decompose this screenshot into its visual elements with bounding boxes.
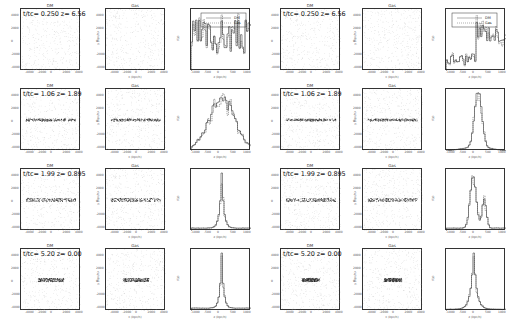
right-hist-panel-row2: z (kpc/h)f(z)-1000-50005001000: [445, 88, 505, 150]
x-tick: -1000: [191, 150, 200, 154]
x-axis-label: x (kpc/h): [106, 315, 164, 319]
y-tick: 0: [11, 279, 13, 283]
x-tick: 4000: [160, 310, 168, 314]
y-tick: -2000: [96, 132, 105, 136]
right-dm-panel-row3: DMt/tc= 1.99 z= 0.895-4000-2000020004000…: [280, 168, 340, 230]
x-tick: 500: [230, 310, 236, 314]
y-axis-label: f(z): [431, 276, 435, 281]
x-tick: -500: [459, 230, 466, 234]
x-tick: 2000: [323, 150, 331, 154]
time-redshift-label: t/tc= 1.99 z= 0.895: [283, 170, 346, 178]
histogram-lines: [191, 249, 251, 311]
x-tick: 2000: [63, 310, 71, 314]
left-hist-panel-row3: z (kpc/h)f(z)-1000-50005001000: [190, 168, 250, 230]
scatter-points: [281, 169, 341, 231]
y-tick: 2000: [96, 266, 104, 270]
x-tick: -2000: [38, 70, 47, 74]
time-redshift-label: t/tc= 0.250 z= 6.56: [23, 10, 86, 18]
y-tick: 2000: [353, 106, 361, 110]
x-tick: -4000: [285, 70, 294, 74]
x-tick: -2000: [380, 150, 389, 154]
x-tick: 500: [485, 70, 491, 74]
y-tick: -2000: [96, 52, 105, 56]
x-tick: 500: [230, 150, 236, 154]
x-tick: 4000: [160, 150, 168, 154]
y-tick: 4000: [271, 13, 279, 17]
scatter-points: [281, 249, 341, 311]
x-tick: 4000: [417, 230, 425, 234]
x-axis-label: z (kpc/h): [191, 235, 249, 239]
histogram-lines: [446, 169, 506, 231]
x-tick: 0: [50, 310, 52, 314]
y-tick: -2000: [96, 292, 105, 296]
right-dm-panel-row1: DMt/tc= 0.250 z= 6.56-4000-2000020004000…: [280, 8, 340, 70]
right-gas-panel-row4: Gasx (kpc/h)y (kpc/h)-4000-2000020004000…: [362, 248, 422, 310]
x-tick: 1000: [243, 150, 251, 154]
y-tick: -4000: [96, 305, 105, 309]
x-tick: -4000: [285, 150, 294, 154]
y-tick: 4000: [353, 13, 361, 17]
y-tick: 4000: [96, 13, 104, 17]
y-tick: 4000: [353, 173, 361, 177]
svg-text:DM: DM: [234, 16, 240, 20]
panel-title: DM: [21, 163, 79, 168]
x-tick: -4000: [110, 230, 119, 234]
x-axis-label: x (kpc/h): [106, 75, 164, 79]
x-tick: 2000: [148, 310, 156, 314]
x-tick: -2000: [298, 230, 307, 234]
scatter-points: [21, 169, 81, 231]
panel-title: Gas: [363, 3, 421, 8]
x-tick: 1000: [498, 150, 506, 154]
x-axis-label: z (kpc/h): [191, 155, 249, 159]
x-tick: 4000: [417, 150, 425, 154]
y-axis-label: f(z): [431, 116, 435, 121]
y-tick: 0: [96, 279, 98, 283]
x-axis-label: x (kpc/h): [363, 155, 421, 159]
y-tick: 2000: [11, 186, 19, 190]
left-gas-panel-row2: Gasx (kpc/h)y (kpc/h)-4000-2000020004000…: [105, 88, 165, 150]
y-tick: 2000: [353, 26, 361, 30]
left-dm-panel-row1: DMt/tc= 0.250 z= 6.56-4000-2000020004000…: [20, 8, 80, 70]
right-gas-panel-row1: Gasx (kpc/h)y (kpc/h)-4000-2000020004000…: [362, 8, 422, 70]
x-tick: 4000: [335, 150, 343, 154]
panel-title: DM: [281, 163, 339, 168]
left-dm-panel-row2: DMt/tc= 1.06 z= 1.89-4000-20000200040004…: [20, 88, 80, 150]
x-tick: -4000: [367, 230, 376, 234]
x-axis-label: x (kpc/h): [106, 235, 164, 239]
x-tick: 2000: [63, 230, 71, 234]
y-axis-label: f(z): [431, 36, 435, 41]
right-hist-panel-row3: z (kpc/h)f(z)-1000-50005001000: [445, 168, 505, 230]
x-tick: -4000: [285, 310, 294, 314]
y-tick: 4000: [353, 93, 361, 97]
histogram-lines: [191, 169, 251, 231]
x-tick: 4000: [417, 310, 425, 314]
histogram-lines: [191, 89, 251, 151]
y-tick: -4000: [96, 65, 105, 69]
y-tick: -2000: [353, 212, 362, 216]
x-tick: -500: [459, 70, 466, 74]
scatter-points: [21, 249, 81, 311]
y-tick: 0: [353, 199, 355, 203]
x-tick: 500: [485, 310, 491, 314]
y-axis-label: f(z): [176, 196, 180, 201]
x-tick: 500: [230, 230, 236, 234]
x-tick: -4000: [367, 70, 376, 74]
y-tick: -4000: [96, 145, 105, 149]
left-hist-panel-row1: DM Gasz (kpc/h)f(z)-1000-50005001000: [190, 8, 250, 70]
y-tick: 2000: [353, 266, 361, 270]
scatter-points: [106, 249, 166, 311]
y-tick: 0: [271, 199, 273, 203]
y-tick: 4000: [271, 173, 279, 177]
y-tick: 0: [11, 199, 13, 203]
y-tick: -4000: [271, 145, 280, 149]
x-tick: -4000: [25, 150, 34, 154]
x-tick: 1000: [243, 230, 251, 234]
x-tick: 0: [135, 70, 137, 74]
x-tick: 0: [472, 230, 474, 234]
scatter-points: [106, 9, 166, 71]
x-tick: -1000: [446, 310, 455, 314]
y-tick: -4000: [11, 65, 20, 69]
x-tick: -2000: [38, 310, 47, 314]
time-redshift-label: t/tc= 1.06 z= 1.89: [283, 90, 342, 98]
x-tick: 0: [135, 230, 137, 234]
